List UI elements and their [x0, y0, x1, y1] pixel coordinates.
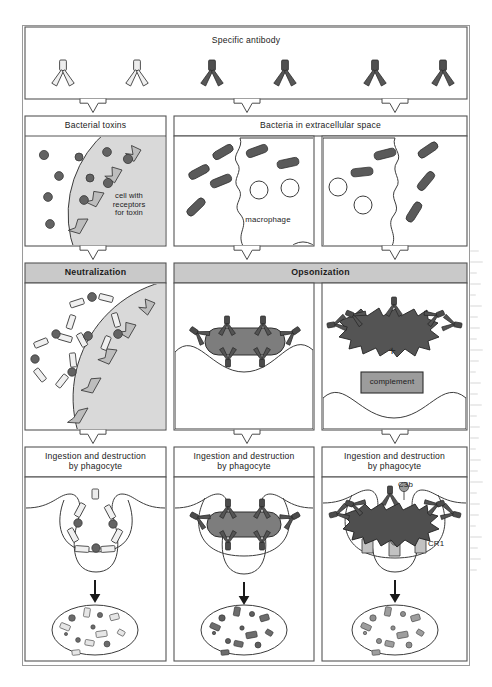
immunology-figure: Specific antibody Bacterial toxins Bacte… [0, 0, 492, 687]
panel-bacteria-extracellular [174, 116, 467, 250]
panel-ingestion-2 [174, 447, 314, 661]
panel-specific-antibody [25, 27, 467, 99]
panel-ingestion-3 [322, 447, 467, 661]
panel-opsonization [174, 263, 467, 430]
panel-ingestion-1 [25, 447, 166, 661]
figure-canvas [0, 0, 492, 687]
